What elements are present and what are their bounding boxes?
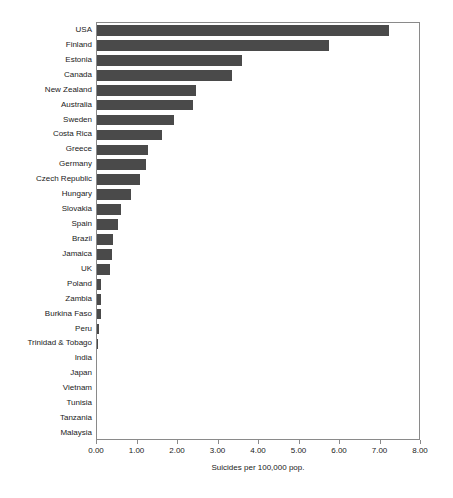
x-axis-tick-mark [339, 440, 340, 444]
y-axis-label: Trinidad & Tobago [2, 338, 92, 347]
x-axis-tick-label: 3.00 [210, 446, 226, 455]
y-axis-label: UK [2, 264, 92, 273]
y-axis-label: Tunisia [2, 398, 92, 407]
bar [97, 100, 193, 111]
y-axis-label: Slovakia [2, 204, 92, 213]
x-axis-tick-mark [177, 440, 178, 444]
x-axis-tick-label: 7.00 [372, 446, 388, 455]
y-axis-label: Estonia [2, 55, 92, 64]
bar-row [97, 157, 419, 172]
y-axis-label: New Zealand [2, 85, 92, 94]
x-axis-tick-label: 1.00 [129, 446, 145, 455]
y-axis-label: Tanzania [2, 413, 92, 422]
bar [97, 234, 113, 245]
x-axis-tick-label: 0.00 [88, 446, 104, 455]
bar [97, 324, 99, 335]
y-axis-label: Jamaica [2, 249, 92, 258]
bar-row [97, 411, 419, 426]
y-axis-labels: USAFinlandEstoniaCanadaNew ZealandAustra… [0, 22, 92, 440]
y-axis-label: Germany [2, 159, 92, 168]
bar-row [97, 142, 419, 157]
bar-chart: USAFinlandEstoniaCanadaNew ZealandAustra… [0, 0, 453, 498]
bar [97, 219, 118, 230]
bar-row [97, 396, 419, 411]
bar-row [97, 351, 419, 366]
bar-row [97, 23, 419, 38]
bar [97, 204, 121, 215]
bar [97, 189, 131, 200]
bar [97, 309, 101, 320]
bar [97, 25, 389, 36]
y-axis-label: Hungary [2, 189, 92, 198]
bar-row [97, 68, 419, 83]
y-axis-label: Peru [2, 324, 92, 333]
bar [97, 145, 148, 156]
bar-row [97, 426, 419, 441]
y-axis-label: Finland [2, 40, 92, 49]
bar [97, 70, 232, 81]
x-axis-tick-label: 8.00 [412, 446, 428, 455]
y-axis-label: Greece [2, 144, 92, 153]
x-axis-tick-label: 2.00 [169, 446, 185, 455]
bar [97, 159, 146, 170]
bar-row [97, 128, 419, 143]
bar-row [97, 277, 419, 292]
y-axis-label: Japan [2, 368, 92, 377]
y-axis-label: Costa Rica [2, 129, 92, 138]
bar-row [97, 187, 419, 202]
bar-row [97, 83, 419, 98]
y-axis-label: Czech Republic [2, 174, 92, 183]
bar-row [97, 202, 419, 217]
x-axis-tick-mark [258, 440, 259, 444]
bar [97, 130, 162, 141]
plot-area [96, 22, 420, 440]
x-axis-tick-label: 4.00 [250, 446, 266, 455]
chart-title-strip [0, 0, 453, 14]
bar-row [97, 262, 419, 277]
y-axis-label: India [2, 353, 92, 362]
bar-row [97, 247, 419, 262]
bar-row [97, 232, 419, 247]
y-axis-label: Burkina Faso [2, 309, 92, 318]
bar-row [97, 98, 419, 113]
bar-row [97, 53, 419, 68]
bar [97, 339, 98, 350]
bar [97, 264, 110, 275]
bar-row [97, 217, 419, 232]
y-axis-label: Sweden [2, 115, 92, 124]
bar [97, 174, 140, 185]
y-axis-label: Brazil [2, 234, 92, 243]
bar-row [97, 307, 419, 322]
x-axis-tick-mark [380, 440, 381, 444]
bar-row [97, 38, 419, 53]
bar [97, 40, 329, 51]
x-axis-tick-label: 5.00 [291, 446, 307, 455]
y-axis-label: Poland [2, 279, 92, 288]
bar [97, 279, 101, 290]
x-axis-tick-mark [299, 440, 300, 444]
x-axis-tick-label: 6.00 [331, 446, 347, 455]
bar-row [97, 292, 419, 307]
bar-row [97, 337, 419, 352]
x-axis-title: Suicides per 100,000 pop. [96, 463, 420, 472]
x-axis-tick-mark [218, 440, 219, 444]
bar [97, 294, 101, 305]
bar [97, 115, 174, 126]
bar [97, 55, 242, 66]
bar-row [97, 322, 419, 337]
x-axis-tick-mark [137, 440, 138, 444]
y-axis-label: Zambia [2, 294, 92, 303]
y-axis-label: Canada [2, 70, 92, 79]
bar-row [97, 381, 419, 396]
bar-row [97, 113, 419, 128]
y-axis-label: USA [2, 25, 92, 34]
x-axis-tick-mark [420, 440, 421, 444]
y-axis-label: Vietnam [2, 383, 92, 392]
y-axis-label: Spain [2, 219, 92, 228]
bar-row [97, 172, 419, 187]
x-axis-tick-mark [96, 440, 97, 444]
bar [97, 85, 196, 96]
bar [97, 249, 112, 260]
y-axis-label: Malaysia [2, 428, 92, 437]
bar-row [97, 366, 419, 381]
